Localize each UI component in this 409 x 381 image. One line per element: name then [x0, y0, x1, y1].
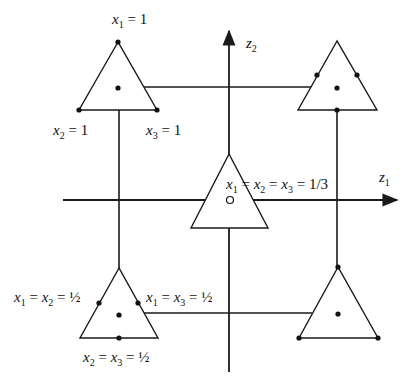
edge-mid-right: [354, 72, 359, 77]
centroid-dot: [335, 311, 340, 316]
centroid-dot: [116, 312, 121, 317]
vertex-bottom-left: [296, 335, 301, 340]
label-x2-x3-half: x2 = x3 = ½: [82, 349, 150, 368]
vertex-bottom-right: [375, 335, 380, 340]
vertex-x2: [76, 107, 81, 112]
centroid-dot: [334, 85, 339, 90]
vertex-x1: [115, 39, 120, 44]
triangle-bottom-right: [296, 264, 380, 340]
edge-mid-left: [96, 300, 101, 305]
label-x3-equals-1: x3 = 1: [145, 122, 181, 141]
z2-axis-label: z2: [245, 35, 257, 54]
edge-mid-left: [314, 72, 319, 77]
edge-mid-bottom: [334, 107, 339, 112]
edge-mid-right: [135, 300, 140, 305]
vertex-x3: [154, 107, 159, 112]
label-x1-equals-1: x1 = 1: [111, 11, 147, 30]
simplex-diagram: z2 z1 x1 = 1 x2 = 1 x3 = 1 x1 = x2 = x3 …: [0, 0, 409, 381]
label-x2-equals-1: x2 = 1: [52, 122, 88, 141]
vertex-top: [335, 264, 340, 269]
label-x1-x3-half: x1 = x3 = ½: [145, 289, 213, 308]
z1-axis-label: z1: [378, 169, 390, 188]
triangle-top-right: [298, 41, 377, 113]
triangle-top-left: [76, 39, 159, 112]
centroid-open-circle: [227, 197, 234, 204]
edge-mid-bottom: [116, 335, 121, 340]
label-x1-x2-half: x1 = x2 = ½: [13, 289, 81, 308]
centroid-dot: [115, 85, 120, 90]
